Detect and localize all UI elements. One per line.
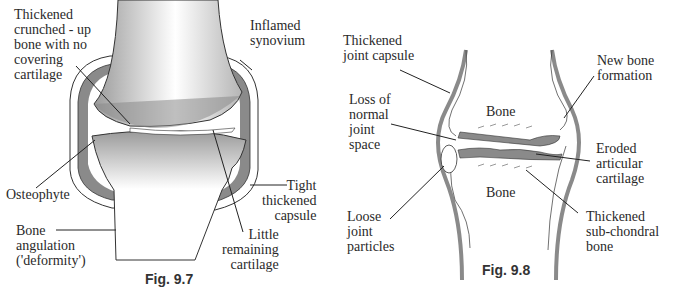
caption-fig-9-7: Fig. 9.7 (145, 271, 193, 287)
label-eroded-cartilage: Eroded articular cartilage (596, 141, 644, 186)
label-tight-capsule: Tight thickened capsule (262, 178, 316, 223)
label-subchondral-bone: Thickened sub-chondral bone (586, 209, 659, 254)
caption-fig-9-8: Fig. 9.8 (482, 262, 530, 278)
diagram-canvas (0, 0, 673, 296)
label-bone-angulation: Bone angulation ('deformity') (16, 223, 86, 268)
label-thickened-joint-capsule: Thickened joint capsule (343, 33, 414, 63)
label-little-cartilage: Little remaining cartilage (222, 227, 279, 272)
label-new-bone-formation: New bone formation (597, 53, 654, 83)
label-bone-upper: Bone (486, 104, 516, 119)
label-loss-joint-space: Loss of normal joint space (349, 92, 391, 152)
label-osteophyte: Osteophyte (6, 187, 70, 202)
label-inflamed-synovium: Inflamed synovium (250, 18, 305, 48)
label-loose-particles: Loose joint particles (347, 209, 394, 254)
label-thickened-bone: Thickened crunched - up bone with no cov… (14, 7, 91, 82)
fig-9-8-joint (390, 50, 594, 280)
label-bone-lower: Bone (486, 185, 516, 200)
